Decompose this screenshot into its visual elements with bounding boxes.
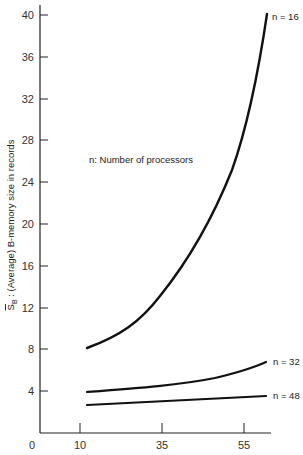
svg-text:36: 36 (22, 51, 34, 63)
svg-text:40: 40 (22, 9, 34, 21)
x-tick-labels: 0 10 35 55 (29, 439, 250, 451)
series-n16-label: n = 16 (272, 11, 299, 22)
series-n48-label: n = 48 (273, 390, 300, 401)
annotation-legend: n: Number of processors (89, 154, 193, 165)
svg-text:16: 16 (22, 260, 34, 272)
y-ticks (40, 15, 48, 391)
svg-text:20: 20 (22, 218, 34, 230)
x-ticks (80, 423, 244, 433)
svg-text:10: 10 (74, 439, 86, 451)
svg-text:35: 35 (156, 439, 168, 451)
chart: 4 8 12 16 20 24 28 32 36 40 0 10 35 55 S… (0, 0, 303, 455)
svg-text:24: 24 (22, 176, 34, 188)
svg-text:55: 55 (238, 439, 250, 451)
series-n48-line (87, 396, 266, 405)
svg-text:28: 28 (22, 134, 34, 146)
series-n16-line (87, 14, 267, 348)
svg-text:32: 32 (22, 93, 34, 105)
svg-text:SB : (Average) B-memory size i: SB : (Average) B-memory size in records (5, 139, 18, 310)
svg-text:8: 8 (28, 343, 34, 355)
svg-text:12: 12 (22, 302, 34, 314)
svg-text:4: 4 (28, 385, 34, 397)
svg-text:0: 0 (29, 439, 35, 451)
series-n32-label: n = 32 (273, 356, 300, 367)
y-axis-label: SB : (Average) B-memory size in records (5, 139, 18, 310)
y-tick-labels: 4 8 12 16 20 24 28 32 36 40 (22, 9, 34, 397)
series-n32-line (87, 362, 266, 392)
